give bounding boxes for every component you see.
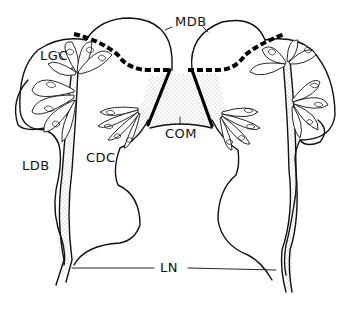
right-hemisphere-outline — [212, 39, 335, 280]
label-cdc: CDC — [86, 150, 116, 165]
label-lgc: LGC — [40, 48, 68, 63]
neuroanatomy-diagram: MDB LGC LDB CDC COM LN — [0, 0, 355, 310]
label-mdb: MDB — [175, 14, 207, 29]
label-ln: LN — [160, 260, 178, 275]
left-cdc-lobules — [98, 107, 140, 148]
right-cdc-lobules — [220, 108, 260, 150]
label-com: COM — [165, 126, 197, 141]
right-peduncle — [282, 60, 299, 292]
label-ldb: LDB — [22, 158, 50, 173]
